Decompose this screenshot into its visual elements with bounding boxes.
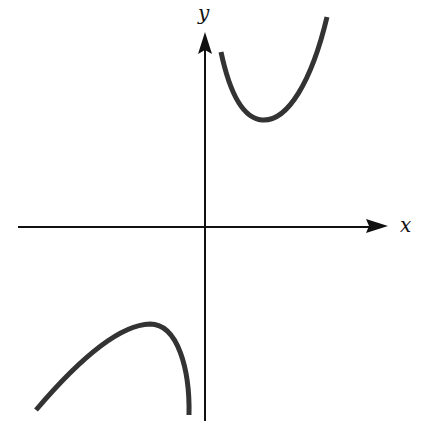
x-axis-label: x [400,213,411,237]
upper-right-branch-curve [221,17,327,120]
lower-left-branch-curve [36,324,189,415]
y-axis-label: y [197,1,210,25]
x-axis-arrow-icon [366,219,388,233]
rational-function-graph: y x [0,0,431,435]
